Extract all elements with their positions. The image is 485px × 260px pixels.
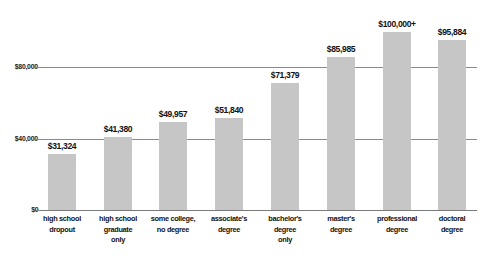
bar-doctoral-degree — [438, 40, 466, 210]
bar-value-some-college-no-degree: $49,957 — [146, 108, 200, 119]
bar-professional-degree — [383, 32, 411, 210]
axis-baseline — [40, 210, 477, 211]
category-label-some-college-no-degree: some college, no degree — [144, 214, 201, 235]
bar-value-masters-degree: $85,985 — [314, 43, 368, 54]
category-label-doctoral-degree: doctoral degree — [424, 214, 479, 235]
bar-value-associates-degree: $51,840 — [202, 104, 256, 115]
bar-value-high-school-dropout: $31,324 — [35, 140, 89, 151]
ytick-mark-0 — [36, 210, 40, 211]
category-label-high-school-dropout: high school dropout — [34, 214, 89, 235]
plot-area: $80,000 $40,000 $0 $31,324 $41,380 $49,9… — [0, 0, 485, 260]
category-label-professional-degree: professional degree — [368, 214, 427, 235]
bar-high-school-dropout — [48, 154, 76, 210]
gridline-80000 — [40, 67, 477, 68]
bar-value-bachelors-degree-only: $71,379 — [258, 69, 312, 80]
category-label-associates-degree: associate's degree — [201, 214, 256, 235]
category-label-high-school-graduate-only: high school graduate only — [90, 214, 145, 246]
bar-chart: $80,000 $40,000 $0 $31,324 $41,380 $49,9… — [0, 0, 485, 260]
bar-high-school-graduate-only — [104, 137, 132, 210]
bar-value-doctoral-degree: $95,884 — [425, 26, 479, 37]
category-label-masters-degree: master's degree — [313, 214, 368, 235]
category-label-bachelors-degree-only: bachelor's degree only — [257, 214, 312, 246]
bar-value-professional-degree: $100,000+ — [366, 18, 429, 29]
ytick-label-80000: $80,000 — [15, 62, 38, 71]
bar-value-high-school-graduate-only: $41,380 — [91, 123, 145, 134]
bar-masters-degree — [327, 57, 355, 210]
bar-associates-degree — [215, 118, 243, 210]
bar-bachelors-degree-only — [271, 83, 299, 210]
bar-some-college-no-degree — [159, 122, 187, 210]
ytick-mark-80000 — [36, 67, 40, 68]
